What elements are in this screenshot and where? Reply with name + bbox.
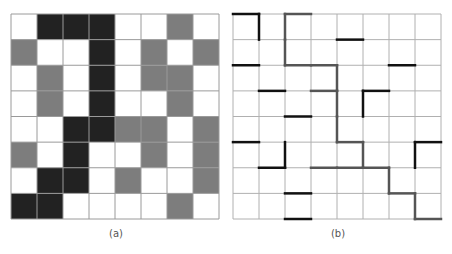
panel-a-label: (a) (96, 228, 136, 239)
panel-b-grid (0, 0, 452, 254)
panel-b-label: (b) (318, 228, 358, 239)
